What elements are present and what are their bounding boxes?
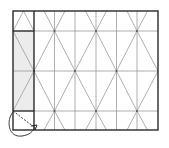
crease-pattern-diagram — [0, 0, 169, 148]
fold-dashed-line — [13, 111, 34, 127]
